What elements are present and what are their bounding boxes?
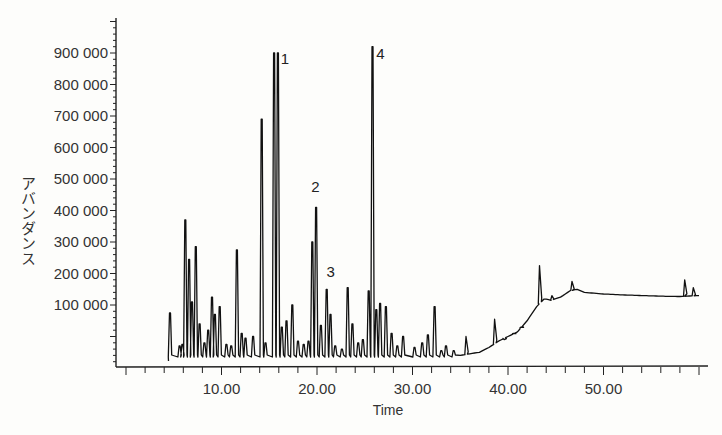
y-tick-label: 100 000 — [54, 296, 108, 313]
peak-label-3: 3 — [327, 263, 335, 280]
x-tick-label: 30.00 — [394, 380, 432, 397]
y-tick-label: 400 000 — [54, 202, 108, 219]
y-tick-label: 300 000 — [54, 233, 108, 250]
x-tick-label: 20.00 — [298, 380, 336, 397]
peak-label-4: 4 — [376, 45, 384, 62]
x-tick-label: 40.00 — [489, 380, 527, 397]
y-tick-label: 500 000 — [54, 170, 108, 187]
peak-label-1: 1 — [281, 50, 289, 67]
y-tick-label: 800 000 — [54, 76, 108, 93]
chromatogram-chart: 100 000200 000300 000400 000500 000600 0… — [0, 0, 722, 435]
y-tick-label: 200 000 — [54, 265, 108, 282]
x-tick-label: 10.00 — [203, 380, 241, 397]
peak-label-2: 2 — [311, 178, 319, 195]
peak-annotations: 1234 — [281, 45, 385, 279]
x-axis-title: Time — [373, 402, 404, 418]
y-axis-title: アバンダンス — [20, 176, 36, 266]
x-tick-label: 50.00 — [585, 380, 623, 397]
chromatogram-trace — [168, 47, 699, 361]
y-axis: 100 000200 000300 000400 000500 000600 0… — [54, 18, 116, 367]
y-tick-label: 700 000 — [54, 107, 108, 124]
y-tick-label: 900 000 — [54, 44, 108, 61]
y-tick-label: 600 000 — [54, 139, 108, 156]
x-axis: 10.0020.0030.0040.0050.00 — [116, 366, 708, 397]
